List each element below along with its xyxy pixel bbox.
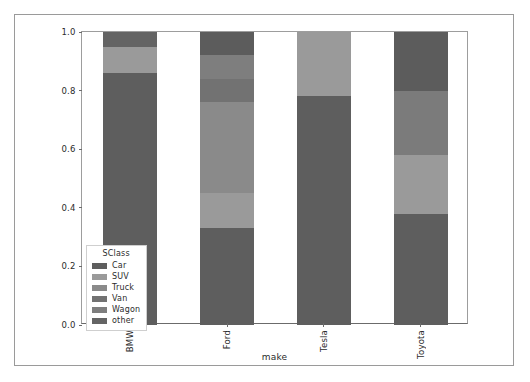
- legend-entry-label: Car: [112, 261, 126, 270]
- legend-entry-label: Van: [112, 294, 127, 303]
- y-axis-tick: 0.6: [61, 144, 82, 154]
- legend-entry-label: other: [112, 316, 134, 325]
- bar-stack-ford[interactable]: [200, 32, 254, 323]
- bar-segment[interactable]: [394, 214, 448, 325]
- y-axis-tick: 0.8: [61, 86, 82, 96]
- y-axis-tick-mark: [79, 325, 83, 326]
- y-axis-tick-mark: [79, 32, 83, 33]
- x-axis-tick-mark: [420, 323, 421, 327]
- x-axis-tick: Ford: [222, 323, 232, 349]
- y-axis-tick: 0.2: [61, 261, 82, 271]
- bar-segment[interactable]: [394, 91, 448, 155]
- y-axis-tick-label: 0.6: [61, 144, 78, 154]
- legend-entry[interactable]: Wagon: [92, 304, 140, 315]
- bar-segment[interactable]: [297, 96, 351, 325]
- bar-stack-tesla[interactable]: [297, 32, 351, 323]
- legend-entry[interactable]: Truck: [92, 282, 140, 293]
- bar-segment[interactable]: [200, 102, 254, 193]
- y-axis-tick-label: 0.4: [61, 203, 78, 213]
- y-axis-tick: 1.0: [61, 27, 82, 37]
- legend-entry[interactable]: Van: [92, 293, 140, 304]
- legend-entry-label: SUV: [112, 272, 129, 281]
- y-axis-tick-mark: [79, 90, 83, 91]
- bar-segment[interactable]: [103, 47, 157, 73]
- legend-entry-list: CarSUVTruckVanWagonother: [92, 260, 140, 326]
- bar-segment[interactable]: [297, 32, 351, 96]
- x-axis-tick-label: BMW: [125, 330, 135, 352]
- bar-segment[interactable]: [394, 32, 448, 91]
- bar-segment[interactable]: [200, 193, 254, 228]
- y-axis-tick: 0.4: [61, 203, 82, 213]
- legend-title: SClass: [92, 249, 140, 258]
- bar-stack-toyota[interactable]: [394, 32, 448, 323]
- bar-segment[interactable]: [200, 32, 254, 55]
- y-axis-tick-label: 0.8: [61, 86, 78, 96]
- y-axis-tick-label: 0.0: [61, 320, 78, 330]
- bar-segment[interactable]: [103, 32, 157, 47]
- bar-segment[interactable]: [200, 79, 254, 102]
- y-axis-tick: 0.0: [61, 320, 82, 330]
- legend-swatch-icon: [92, 296, 107, 302]
- y-axis-tick-label: 1.0: [61, 27, 78, 37]
- legend-swatch-icon: [92, 274, 107, 280]
- x-axis-tick: Tesla: [319, 323, 329, 351]
- x-axis-tick-mark: [227, 323, 228, 327]
- y-axis-tick-mark: [79, 207, 83, 208]
- x-axis-tick-mark: [323, 323, 324, 327]
- legend-swatch-icon: [92, 307, 107, 313]
- x-axis-tick-label: Ford: [222, 330, 232, 349]
- x-axis-tick-label: Tesla: [319, 330, 329, 352]
- legend: SClass CarSUVTruckVanWagonother: [86, 245, 147, 331]
- y-axis-tick-label: 0.2: [61, 261, 78, 271]
- chart-figure: 0.00.20.40.60.81.0BMWFordTeslaToyota mak…: [0, 0, 530, 382]
- bar-segment[interactable]: [200, 55, 254, 78]
- x-axis-label: make: [81, 352, 468, 362]
- bar-segment[interactable]: [200, 228, 254, 325]
- legend-entry-label: Truck: [112, 283, 134, 292]
- legend-swatch-icon: [92, 318, 107, 324]
- legend-entry-label: Wagon: [112, 305, 140, 314]
- bar-segment[interactable]: [394, 155, 448, 214]
- legend-swatch-icon: [92, 263, 107, 269]
- legend-entry[interactable]: SUV: [92, 271, 140, 282]
- legend-entry[interactable]: Car: [92, 260, 140, 271]
- legend-swatch-icon: [92, 285, 107, 291]
- y-axis-tick-mark: [79, 149, 83, 150]
- legend-entry[interactable]: other: [92, 315, 140, 326]
- y-axis-tick-mark: [79, 266, 83, 267]
